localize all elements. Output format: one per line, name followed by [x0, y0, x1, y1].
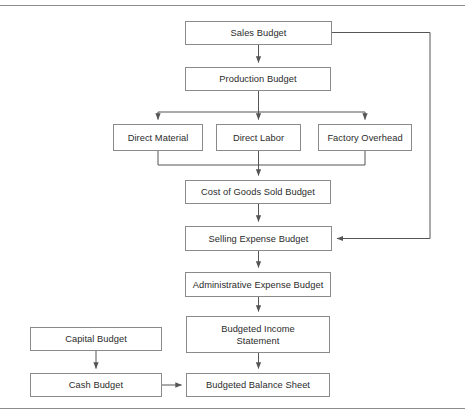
node-cost-of-goods-sold-budget[interactable]: Cost of Goods Sold Budget — [185, 180, 331, 204]
top-rule — [0, 5, 465, 6]
diagram-page: Sales Budget Production Budget Direct Ma… — [0, 0, 465, 420]
node-production-budget[interactable]: Production Budget — [185, 67, 331, 91]
node-label-budgeted-income-statement: Budgeted Income Statement — [218, 323, 298, 347]
node-label-direct-labor: Direct Labor — [230, 132, 287, 144]
node-factory-overhead[interactable]: Factory Overhead — [318, 124, 412, 151]
node-label-selling-expense-budget: Selling Expense Budget — [206, 233, 312, 245]
node-label-direct-material: Direct Material — [125, 132, 192, 144]
node-label-sales-budget: Sales Budget — [228, 27, 290, 39]
node-budgeted-income-statement[interactable]: Budgeted Income Statement — [186, 316, 330, 353]
node-sales-budget[interactable]: Sales Budget — [185, 21, 332, 45]
node-administrative-expense-budget[interactable]: Administrative Expense Budget — [185, 272, 331, 297]
node-label-capital-budget: Capital Budget — [62, 333, 130, 345]
node-selling-expense-budget[interactable]: Selling Expense Budget — [185, 226, 332, 251]
node-cash-budget[interactable]: Cash Budget — [30, 373, 162, 397]
node-label-administrative-expense-budget: Administrative Expense Budget — [190, 279, 327, 291]
node-budgeted-balance-sheet[interactable]: Budgeted Balance Sheet — [186, 373, 330, 397]
connector-layer — [0, 0, 465, 420]
node-label-cash-budget: Cash Budget — [66, 379, 126, 391]
node-label-factory-overhead: Factory Overhead — [324, 132, 405, 144]
node-label-cost-of-goods-sold-budget: Cost of Goods Sold Budget — [198, 186, 318, 198]
node-direct-labor[interactable]: Direct Labor — [216, 124, 301, 151]
node-label-budgeted-balance-sheet: Budgeted Balance Sheet — [203, 379, 313, 391]
node-capital-budget[interactable]: Capital Budget — [30, 327, 162, 351]
bottom-rule — [0, 408, 465, 409]
node-label-production-budget: Production Budget — [216, 73, 299, 85]
node-direct-material[interactable]: Direct Material — [113, 124, 203, 151]
